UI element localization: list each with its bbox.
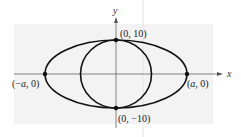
point-left (43, 72, 47, 76)
label-top: (0, 10) (120, 28, 147, 40)
label-left: (−a, 0) (12, 78, 39, 90)
y-axis-label: y (112, 5, 118, 16)
x-axis-arrow-icon (217, 72, 223, 76)
label-right: (a, 0) (187, 78, 209, 90)
point-right (185, 72, 189, 76)
x-axis-label: x (226, 68, 232, 79)
label-bottom: (0, −10) (118, 113, 150, 125)
point-bottom (114, 106, 118, 110)
point-top (114, 38, 118, 42)
conic-diagram: x y (0, 10) (0, −10) (−a, 0) (a, 0) (0, 0, 241, 137)
y-axis-arrow-icon (114, 17, 118, 23)
